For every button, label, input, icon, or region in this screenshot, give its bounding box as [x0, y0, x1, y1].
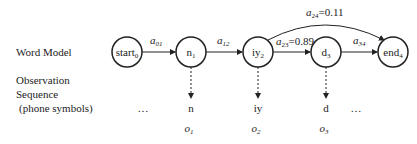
phone-n: n — [188, 102, 194, 114]
ellipsis-left: … — [138, 102, 149, 114]
observation-label: Observation — [16, 74, 70, 86]
obs-o1: o1 — [185, 122, 194, 136]
label-a12: a12 — [217, 34, 230, 48]
ellipsis-right: … — [351, 102, 362, 114]
state-start: start0 — [112, 37, 142, 67]
phone-d: d — [323, 102, 329, 114]
label-a34: a34 — [353, 34, 366, 48]
state-d: d3 — [311, 37, 341, 67]
phone-symbols-label: (phone symbols) — [19, 102, 93, 115]
word-model-label: Word Model — [16, 46, 72, 58]
label-a23: a23=0.89 — [276, 35, 314, 49]
state-n: n1 — [176, 37, 206, 67]
label-a24: a24=0.11 — [306, 6, 344, 20]
word-model-diagram: Word Model Observation Sequence (phone s… — [0, 0, 417, 144]
label-a01: a01 — [150, 34, 163, 48]
obs-o2: o2 — [252, 122, 262, 136]
phone-iy: iy — [254, 102, 263, 114]
state-iy: iy2 — [243, 37, 273, 67]
state-end: end4 — [378, 37, 408, 67]
obs-o3: o3 — [320, 122, 330, 136]
sequence-label: Sequence — [16, 88, 58, 100]
